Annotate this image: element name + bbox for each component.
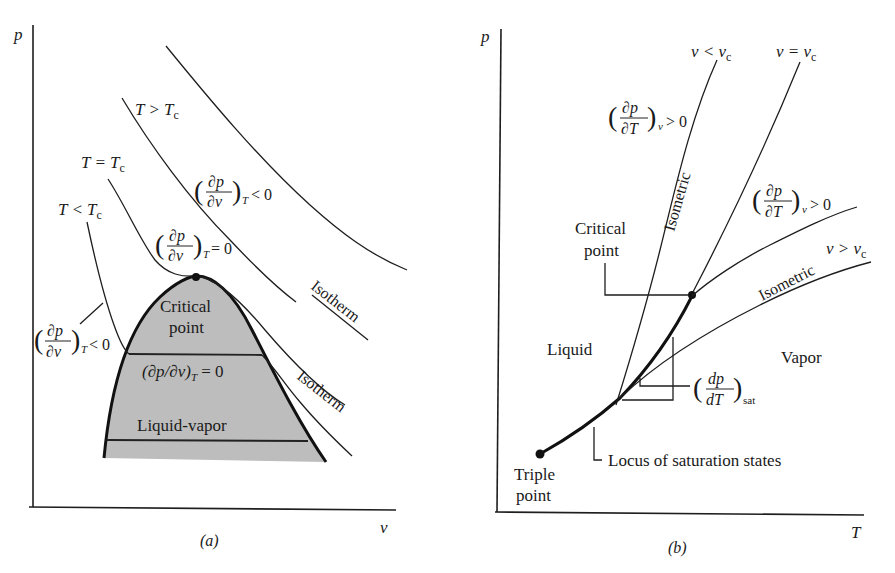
svg-text:): ) (193, 229, 202, 260)
triple-point-dot (536, 450, 545, 459)
svg-text:∂p: ∂p (47, 322, 63, 340)
pointer-line-a (80, 303, 103, 324)
svg-text:∂v: ∂v (207, 193, 223, 210)
svg-text:): ) (71, 324, 80, 355)
slope-pointer (640, 378, 690, 386)
label-T-above-Tc: T > Tc (135, 100, 179, 122)
svg-text:T: T (203, 248, 210, 260)
caption-b: (b) (668, 539, 687, 557)
liquid-vapor-label: Liquid-vapor (137, 416, 227, 435)
svg-text:< 0: < 0 (89, 336, 110, 353)
svg-text:(: ( (752, 184, 761, 215)
locus-label: Locus of saturation states (608, 451, 781, 470)
tie-line-lower (107, 440, 308, 441)
critical-point-label-b-2: point (584, 241, 619, 260)
T-axis-label-b: T (851, 523, 862, 542)
svg-text:T: T (81, 343, 88, 355)
isotherm-label-1: Isotherm (308, 277, 364, 326)
v-axis-a (29, 507, 396, 510)
svg-text:dp: dp (708, 370, 724, 388)
derivative-label-below: ( ∂p ∂v ) T < 0 (34, 322, 110, 360)
svg-text:∂p: ∂p (208, 173, 224, 191)
derivative-label-above: ( ∂p ∂v ) T < 0 (194, 173, 272, 210)
isotherm-below-critical-upper (87, 222, 129, 354)
svg-text:): ) (791, 184, 800, 215)
saturation-curve (540, 296, 692, 454)
svg-text:sat: sat (743, 394, 755, 406)
isometric-label-1: Isometric (661, 170, 694, 233)
svg-text:∂v: ∂v (168, 247, 184, 264)
inline-zero-label: (∂p/∂v)T = 0 (142, 362, 224, 383)
caption-a: (a) (200, 532, 219, 550)
svg-text:∂T: ∂T (765, 203, 783, 220)
svg-text:> 0: > 0 (810, 196, 831, 213)
vapor-label: Vapor (781, 348, 822, 367)
tie-line-upper (129, 354, 262, 355)
svg-text:(: ( (34, 324, 43, 355)
T-axis-b (495, 512, 864, 515)
p-axis-b (497, 29, 501, 512)
label-v-less-vc: v < vc (691, 42, 731, 64)
svg-text:v: v (802, 203, 807, 215)
p-axis-label-b: p (480, 27, 490, 46)
derivative-label-upper-b: ( ∂p ∂T ) v > 0 (608, 99, 687, 137)
isotherm-label-2: Isotherm (294, 367, 350, 416)
label-T-below-Tc: T < Tc (58, 200, 102, 222)
label-v-equal-vc: v = vc (776, 42, 816, 64)
critical-point-dot-a (192, 273, 200, 281)
svg-text:∂v: ∂v (46, 343, 62, 360)
derivative-label-critical: ( ∂p ∂v ) T = 0 (155, 227, 232, 264)
triple-point-label-2: point (516, 486, 551, 505)
critical-point-leader (605, 263, 688, 295)
svg-text:(: ( (155, 229, 164, 260)
svg-text:∂p: ∂p (169, 227, 185, 245)
svg-text:= 0: = 0 (211, 240, 232, 257)
derivative-label-middle-b: ( ∂p ∂T ) v > 0 (752, 182, 831, 220)
critical-point-label-a-1: Critical (160, 297, 211, 316)
triple-point-label-1: Triple (514, 465, 555, 484)
svg-text:): ) (733, 372, 742, 403)
svg-text:∂p: ∂p (622, 99, 638, 117)
svg-text:v: v (658, 120, 663, 132)
svg-text:(: ( (693, 372, 702, 403)
svg-text:> 0: > 0 (666, 113, 687, 130)
derivative-label-sat: ( dp dT ) sat (693, 370, 755, 408)
liquid-label: Liquid (547, 340, 593, 359)
critical-point-dot-b (688, 291, 696, 299)
p-axis-label-a: p (13, 25, 23, 44)
critical-point-label-a-2: point (169, 318, 204, 337)
isometric-label-2: Isometric (756, 261, 818, 304)
label-T-equal-Tc: T = Tc (81, 153, 125, 175)
isometric-v-greater-vc (620, 262, 871, 398)
svg-text:< 0: < 0 (251, 186, 272, 203)
v-axis-label-a: v (380, 518, 388, 537)
svg-text:(: ( (194, 175, 203, 206)
svg-text:): ) (232, 175, 241, 206)
label-v-greater-vc: v > vc (826, 239, 866, 261)
panel-b: p T (b) v < vc v = vc v > vc ( ∂p ∂T (480, 27, 871, 557)
svg-text:dT: dT (706, 391, 724, 408)
svg-text:): ) (647, 101, 656, 132)
panel-a: p v (a) T > Tc T = Tc T < Tc ( ∂p (13, 25, 407, 550)
svg-text:(: ( (608, 101, 617, 132)
thermo-diagram: p v (a) T > Tc T = Tc T < Tc ( ∂p (0, 0, 895, 573)
critical-point-label-b-1: Critical (575, 219, 626, 238)
svg-text:∂T: ∂T (621, 120, 639, 137)
svg-text:∂p: ∂p (766, 182, 782, 200)
locus-leader (594, 427, 602, 460)
svg-text:T: T (242, 194, 249, 206)
